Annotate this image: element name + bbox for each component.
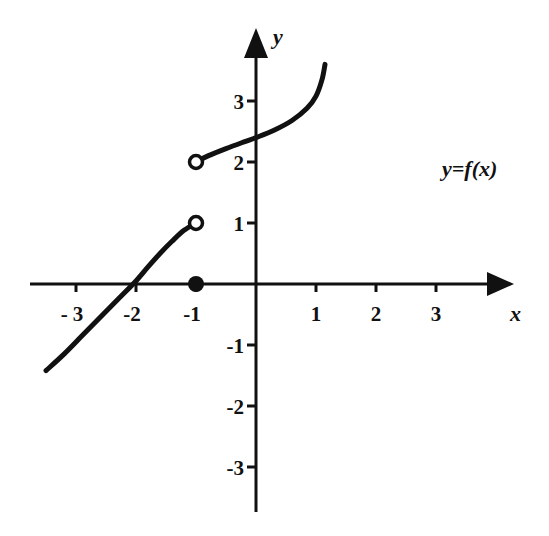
y-tick-label: -3 — [227, 456, 245, 480]
open-circle-right-start — [190, 156, 203, 169]
y-tick-label: 3 — [234, 90, 245, 114]
y-tick-label: -2 — [227, 395, 245, 419]
function-graph: x y - 3-2-1123321-1-2-3 y=f(x) — [0, 0, 549, 536]
y-tick-label: 1 — [234, 212, 245, 236]
x-tick-label: -2 — [123, 302, 141, 326]
y-tick-label: 2 — [234, 151, 245, 175]
y-axis-label: y — [270, 24, 283, 49]
curve-left-branch — [46, 223, 196, 371]
x-axis-label: x — [509, 301, 521, 326]
curve-right-branch — [196, 64, 325, 162]
x-axis-arrow — [487, 272, 514, 296]
markers — [188, 156, 204, 293]
function-label: y=f(x) — [439, 156, 497, 181]
x-tick-label: 2 — [371, 302, 382, 326]
open-circle-left-end — [190, 217, 203, 230]
axes: x y — [30, 24, 521, 512]
x-tick-label: 3 — [431, 302, 442, 326]
y-tick-label: -1 — [227, 334, 245, 358]
x-tick-label: 1 — [311, 302, 322, 326]
y-axis-arrow — [244, 28, 268, 58]
x-tick-label: - 3 — [61, 302, 84, 326]
x-tick-label: -1 — [183, 302, 201, 326]
filled-dot — [188, 276, 204, 292]
